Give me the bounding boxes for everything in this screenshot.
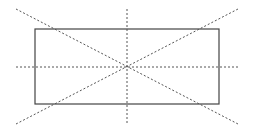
diagram-svg bbox=[0, 0, 255, 137]
diagram-canvas bbox=[0, 0, 255, 137]
